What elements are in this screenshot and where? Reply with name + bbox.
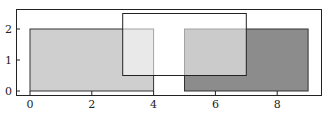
y-axis: 012 xyxy=(5,23,20,98)
x-tick-label: 0 xyxy=(27,98,34,111)
x-tick-label: 6 xyxy=(212,98,219,111)
y-tick-label: 2 xyxy=(5,23,12,36)
y-tick-label: 1 xyxy=(5,54,12,67)
chart: 02468 012 xyxy=(0,0,329,116)
plot-area xyxy=(30,14,308,92)
x-axis: 02468 xyxy=(27,91,281,111)
y-tick-label: 0 xyxy=(5,85,12,98)
x-tick-label: 2 xyxy=(88,98,95,111)
x-tick-label: 8 xyxy=(274,98,281,111)
x-tick-label: 4 xyxy=(150,98,157,111)
overlay-rectangle xyxy=(123,14,247,76)
